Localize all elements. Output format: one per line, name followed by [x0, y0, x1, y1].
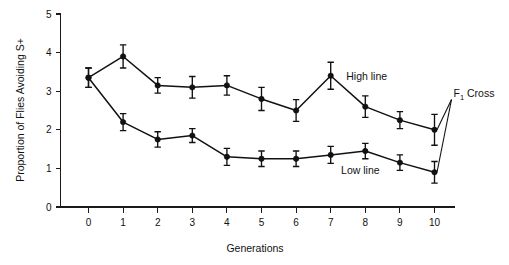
x-tick-label: 6	[293, 217, 299, 228]
data-point-marker	[432, 127, 437, 132]
y-axis-title: Proportion of Flies Avoiding S+	[14, 38, 26, 182]
y-tick-label: 2	[46, 124, 52, 135]
data-point-marker	[86, 75, 91, 80]
x-tick-label: 9	[397, 217, 403, 228]
data-point-marker	[224, 83, 229, 88]
x-tick-label: 4	[224, 217, 230, 228]
y-tick-label: 1	[46, 163, 52, 174]
data-point-marker	[155, 137, 160, 142]
y-tick-label: 0	[46, 202, 52, 213]
data-point-marker	[432, 170, 437, 175]
x-tick-label: 3	[190, 217, 196, 228]
y-tick-label: 3	[46, 86, 52, 97]
data-point-marker	[155, 83, 160, 88]
x-tick-label: 5	[259, 217, 265, 228]
x-tick-labels: 012345678910	[86, 217, 441, 228]
high-line-label: High line	[346, 70, 387, 82]
data-point-marker	[328, 73, 333, 78]
data-point-marker	[363, 148, 368, 153]
data-point-marker	[120, 54, 125, 59]
y-tick-labels: 012345	[46, 9, 52, 213]
low-line-label: Low line	[341, 164, 380, 176]
f1-cross-annotation: F1 Cross	[454, 87, 495, 102]
data-point-marker	[259, 96, 264, 101]
data-point-marker	[328, 152, 333, 157]
x-tick-label: 1	[120, 217, 126, 228]
chart-canvas: 012345 012345678910 High lineLow lineF1 …	[0, 0, 509, 265]
figure-root: 012345 012345678910 High lineLow lineF1 …	[0, 0, 509, 265]
y-tick-label: 4	[46, 47, 52, 58]
f1-cross-leader-line	[437, 99, 452, 172]
x-tick-label: 0	[86, 217, 92, 228]
x-tick-label: 10	[429, 217, 441, 228]
data-point-marker	[190, 85, 195, 90]
x-tick-label: 2	[155, 217, 161, 228]
data-point-marker	[190, 133, 195, 138]
data-point-marker	[259, 156, 264, 161]
x-tick-label: 7	[328, 217, 334, 228]
data-point-marker	[363, 104, 368, 109]
y-tick-label: 5	[46, 9, 52, 20]
axes-group	[56, 14, 456, 213]
data-point-marker	[224, 154, 229, 159]
x-axis-title: Generations	[226, 242, 283, 254]
data-point-marker	[120, 119, 125, 124]
series-low-line	[85, 68, 437, 183]
data-point-marker	[397, 117, 402, 122]
annotations-group: High lineLow lineF1 Cross	[341, 70, 494, 176]
data-point-marker	[293, 108, 298, 113]
data-point-marker	[397, 160, 402, 165]
f1-cross-leader-line	[437, 99, 452, 129]
series-group	[85, 45, 437, 183]
data-point-marker	[293, 156, 298, 161]
x-tick-label: 8	[363, 217, 369, 228]
